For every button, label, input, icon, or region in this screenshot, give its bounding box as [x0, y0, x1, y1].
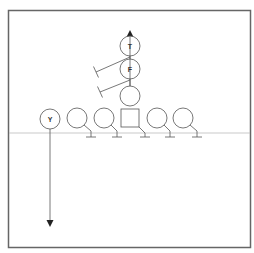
play-diagram: T F Y	[0, 0, 254, 253]
player-qb	[120, 86, 140, 106]
player-c	[121, 109, 139, 127]
player-f-label: F	[128, 66, 133, 73]
player-y-label: Y	[48, 116, 53, 123]
player-t-label: T	[128, 43, 133, 50]
